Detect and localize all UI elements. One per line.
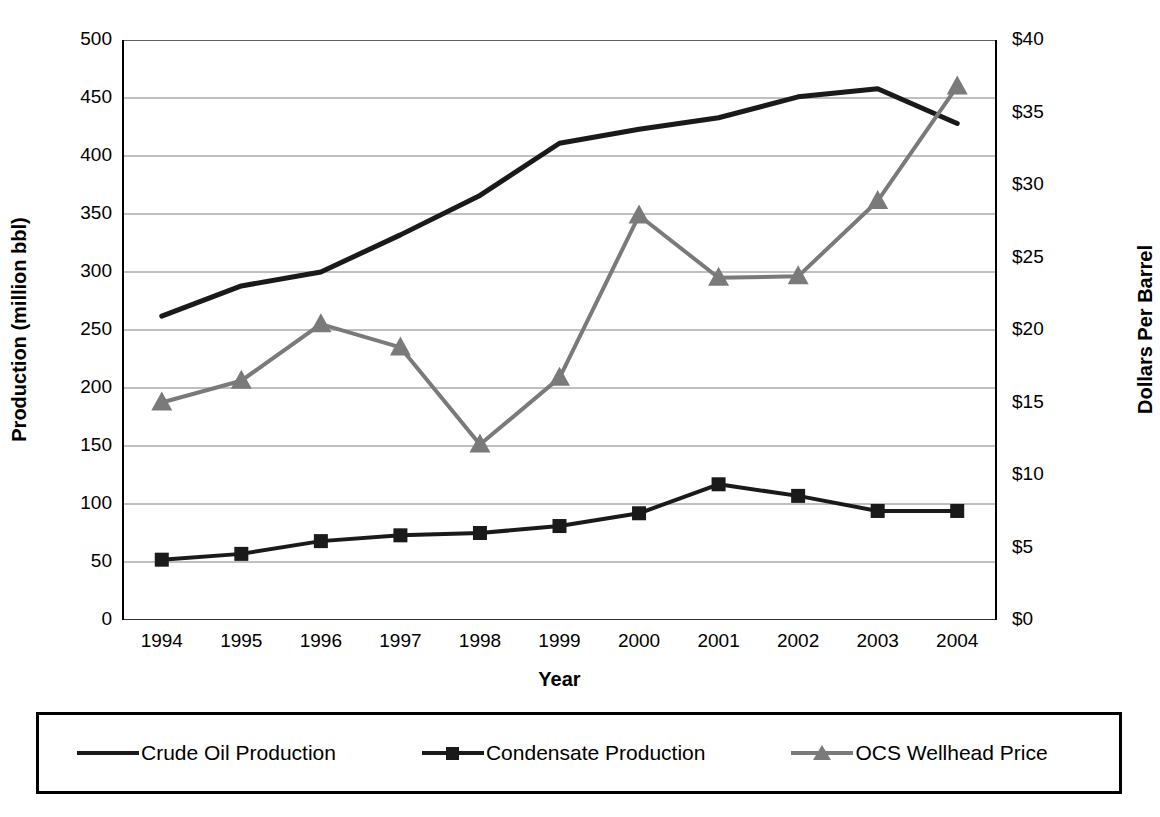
x-tick-2004: 2004 — [912, 630, 1002, 652]
marker-square-1998 — [473, 526, 487, 540]
series-condensate-production — [155, 477, 964, 566]
legend-swatch-triangle-icon — [791, 742, 853, 764]
y-tick-left-500: 500 — [22, 28, 112, 50]
y-tick-right-usd15: $15 — [1012, 391, 1102, 413]
marker-triangle-1999 — [549, 367, 570, 386]
legend-label: Condensate Production — [486, 741, 706, 765]
marker-square-1995 — [234, 547, 248, 561]
y-tick-left-450: 450 — [22, 86, 112, 108]
legend-swatch-line-icon — [77, 742, 139, 764]
y-tick-right-usd0: $0 — [1012, 608, 1102, 630]
marker-square-1996 — [314, 534, 328, 548]
y-tick-left-400: 400 — [22, 144, 112, 166]
chart-figure: Production (million bbl) Dollars Per Bar… — [0, 0, 1160, 817]
y-tick-right-usd30: $30 — [1012, 173, 1102, 195]
marker-triangle-1995 — [231, 370, 252, 389]
x-tick-2003: 2003 — [833, 630, 923, 652]
marker-triangle-1996 — [310, 313, 331, 332]
marker-square-2002 — [791, 489, 805, 503]
marker-square-2004 — [950, 504, 964, 518]
x-tick-2002: 2002 — [753, 630, 843, 652]
x-tick-1996: 1996 — [276, 630, 366, 652]
legend-item-condensate-production[interactable]: Condensate Production — [422, 741, 706, 765]
y-tick-left-50: 50 — [22, 550, 112, 572]
x-axis-title: Year — [122, 668, 997, 691]
y-tick-left-300: 300 — [22, 260, 112, 282]
x-tick-1998: 1998 — [435, 630, 525, 652]
legend-row: Crude Oil ProductionCondensate Productio… — [39, 715, 1119, 791]
y-tick-left-100: 100 — [22, 492, 112, 514]
y-tick-left-200: 200 — [22, 376, 112, 398]
x-tick-1994: 1994 — [117, 630, 207, 652]
legend-item-ocs-wellhead-price[interactable]: OCS Wellhead Price — [791, 741, 1047, 765]
marker-triangle-2004 — [947, 75, 968, 94]
marker-square-2001 — [712, 477, 726, 491]
marker-square-1999 — [553, 519, 567, 533]
legend-label: Crude Oil Production — [141, 741, 336, 765]
legend-label: OCS Wellhead Price — [855, 741, 1047, 765]
marker-square-2000 — [632, 506, 646, 520]
series-line-2 — [162, 86, 957, 444]
series-ocs-wellhead-price — [151, 75, 967, 452]
x-tick-2001: 2001 — [674, 630, 764, 652]
series-crude-oil-production — [162, 89, 957, 316]
y-tick-right-usd40: $40 — [1012, 28, 1102, 50]
chart-legend: Crude Oil ProductionCondensate Productio… — [36, 712, 1122, 794]
legend-item-crude-oil-production[interactable]: Crude Oil Production — [77, 741, 336, 765]
y-tick-right-usd10: $10 — [1012, 463, 1102, 485]
plot-area — [122, 40, 997, 620]
series-line-0 — [162, 89, 957, 316]
marker-square-1997 — [393, 528, 407, 542]
marker-square-1994 — [155, 553, 169, 567]
x-tick-1999: 1999 — [515, 630, 605, 652]
legend-swatch-square-icon — [422, 742, 484, 764]
y-axis-right-title: Dollars Per Barrel — [1130, 39, 1160, 620]
y-tick-left-250: 250 — [22, 318, 112, 340]
x-tick-1995: 1995 — [196, 630, 286, 652]
marker-square-2003 — [871, 504, 885, 518]
y-tick-left-150: 150 — [22, 434, 112, 456]
plot-svg — [122, 40, 997, 620]
x-tick-1997: 1997 — [355, 630, 445, 652]
y-tick-right-usd25: $25 — [1012, 246, 1102, 268]
y-tick-right-usd35: $35 — [1012, 101, 1102, 123]
y-tick-left-0: 0 — [22, 608, 112, 630]
y-tick-right-usd5: $5 — [1012, 536, 1102, 558]
x-tick-2000: 2000 — [594, 630, 684, 652]
y-tick-right-usd20: $20 — [1012, 318, 1102, 340]
y-tick-left-350: 350 — [22, 202, 112, 224]
